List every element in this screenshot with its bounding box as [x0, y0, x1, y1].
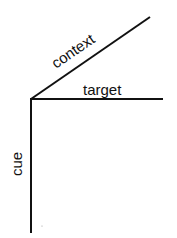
speck [41, 225, 42, 226]
context-label: context [48, 30, 98, 72]
target-label: target [83, 81, 122, 98]
cue-label: cue [8, 152, 25, 176]
cue-target-context-diagram: context target cue [0, 0, 177, 238]
